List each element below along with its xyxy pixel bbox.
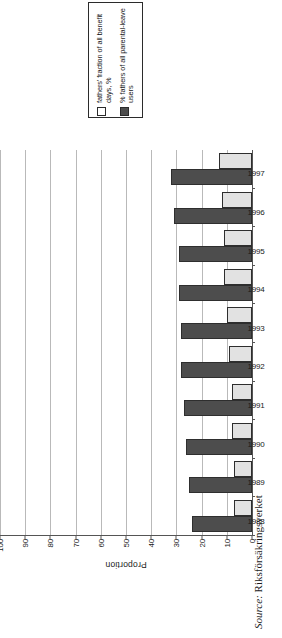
category-slot: 1995 bbox=[252, 227, 282, 266]
bar-group bbox=[0, 266, 252, 305]
category-label-1991: 1991 bbox=[248, 401, 265, 410]
value-axis-tick-20: 20 bbox=[197, 539, 206, 548]
bar-benefit-days bbox=[222, 192, 252, 208]
plot-canvas bbox=[0, 150, 252, 536]
bar-group bbox=[0, 497, 252, 536]
bar-group bbox=[0, 343, 252, 382]
bar-benefit-days bbox=[224, 230, 252, 246]
solid-square-swatch bbox=[119, 107, 128, 116]
value-axis-tick-70: 70 bbox=[71, 539, 80, 548]
bar-benefit-days bbox=[232, 384, 252, 400]
chart-page: fathers' fraction of all benefit days, %… bbox=[0, 0, 282, 638]
value-axis-tick-40: 40 bbox=[147, 539, 156, 548]
value-axis-tickmark-50 bbox=[126, 536, 127, 539]
value-axis-tickmark-60 bbox=[100, 536, 101, 539]
category-tickmark bbox=[252, 419, 255, 420]
bar-group bbox=[0, 150, 252, 189]
legend-label-benefit-days: fathers' fraction of all benefit days, % bbox=[96, 4, 113, 103]
bar-parental-leave-users bbox=[179, 246, 252, 262]
bar-series-container bbox=[0, 150, 252, 535]
category-tickmark bbox=[252, 381, 255, 382]
bar-benefit-days bbox=[229, 346, 252, 362]
legend-item-parental-leave-users: % fathers of all parental-leave users bbox=[118, 4, 135, 116]
bar-parental-leave-users bbox=[181, 323, 252, 339]
value-axis-tick-90: 90 bbox=[21, 539, 30, 548]
value-axis-tickmark-100 bbox=[0, 536, 1, 539]
category-label-1993: 1993 bbox=[248, 324, 265, 333]
bar-group bbox=[0, 189, 252, 228]
category-slot: 1994 bbox=[252, 266, 282, 305]
category-slot: 1996 bbox=[252, 189, 282, 228]
value-axis-tickmark-30 bbox=[176, 536, 177, 539]
value-axis-title: Proportion bbox=[105, 560, 147, 570]
category-slot: 1991 bbox=[252, 382, 282, 421]
bar-parental-leave-users bbox=[171, 169, 252, 185]
category-tickmark bbox=[252, 342, 255, 343]
category-tickmark bbox=[252, 265, 255, 266]
category-tickmark bbox=[252, 226, 255, 227]
value-axis-tick-80: 80 bbox=[46, 539, 55, 548]
legend-label-parental-leave-users: % fathers of all parental-leave users bbox=[118, 4, 135, 103]
bar-group bbox=[0, 381, 252, 420]
category-label-1995: 1995 bbox=[248, 247, 265, 256]
source-note: Source: Riksförsäkringsverket bbox=[243, 430, 277, 630]
value-axis-tick-10: 10 bbox=[222, 539, 231, 548]
bar-parental-leave-users bbox=[174, 208, 252, 224]
bar-benefit-days bbox=[224, 269, 252, 285]
value-axis-tickmark-20 bbox=[201, 536, 202, 539]
value-axis-tick-50: 50 bbox=[122, 539, 131, 548]
bar-benefit-days bbox=[227, 307, 252, 323]
bar-group bbox=[0, 227, 252, 266]
category-label-1994: 1994 bbox=[248, 285, 265, 294]
category-label-1992: 1992 bbox=[248, 362, 265, 371]
bar-parental-leave-users bbox=[181, 362, 252, 378]
value-axis-tickmark-80 bbox=[50, 536, 51, 539]
value-axis-tickmark-10 bbox=[226, 536, 227, 539]
category-label-1996: 1996 bbox=[248, 208, 265, 217]
value-axis-tickmark-90 bbox=[25, 536, 26, 539]
value-axis-tickmark-70 bbox=[75, 536, 76, 539]
category-tickmark bbox=[252, 303, 255, 304]
source-value: Riksförsäkringsverket bbox=[252, 495, 264, 592]
chart-legend: fathers' fraction of all benefit days, %… bbox=[88, 2, 143, 118]
value-axis-tick-100: 100 bbox=[0, 539, 5, 552]
value-axis-tick-60: 60 bbox=[96, 539, 105, 548]
bar-group bbox=[0, 420, 252, 459]
bar-group bbox=[0, 458, 252, 497]
bar-benefit-days bbox=[219, 153, 252, 169]
bar-group bbox=[0, 304, 252, 343]
value-axis-tick-30: 30 bbox=[172, 539, 181, 548]
category-slot: 1992 bbox=[252, 343, 282, 382]
category-slot: 1993 bbox=[252, 304, 282, 343]
chart-area: Proportion 0102030405060708090100 198819… bbox=[0, 150, 282, 570]
bar-parental-leave-users bbox=[184, 400, 252, 416]
category-tickmark bbox=[252, 188, 255, 189]
category-label-1997: 1997 bbox=[248, 169, 265, 178]
open-square-swatch bbox=[97, 107, 106, 116]
bar-parental-leave-users bbox=[179, 285, 252, 301]
category-slot: 1997 bbox=[252, 150, 282, 189]
value-axis-tickmark-40 bbox=[151, 536, 152, 539]
source-label: Source: bbox=[252, 595, 264, 629]
value-axis: Proportion 0102030405060708090100 bbox=[0, 536, 252, 570]
legend-item-benefit-days: fathers' fraction of all benefit days, % bbox=[96, 4, 113, 116]
